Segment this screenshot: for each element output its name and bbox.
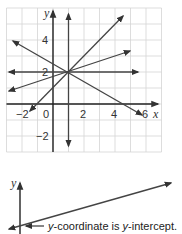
x-tick-6: 6 — [142, 108, 148, 120]
x-tick-neg2: −2 — [16, 108, 29, 120]
coordinate-graph-2: y y-coordinate is y-intercept. — [9, 176, 177, 234]
line-shallow-positive — [9, 51, 130, 91]
y-axis-label-2: y — [10, 176, 17, 190]
x-axis-label: x — [152, 107, 159, 121]
x-tick-2: 2 — [80, 108, 86, 120]
x-tick-0: 0 — [43, 108, 49, 120]
y-tick-4: 4 — [42, 34, 48, 46]
y-axis-label: y — [43, 6, 50, 20]
x-tick-labels: −2 0 2 4 6 — [16, 108, 148, 120]
x-tick-4: 4 — [111, 108, 117, 120]
y-tick-2: 2 — [42, 66, 48, 78]
coordinate-graph-1: −2 0 2 4 6 4 2 −2 y x — [7, 6, 162, 152]
grid — [7, 8, 162, 152]
y-intercept-annotation: y-coordinate is y-intercept. — [47, 220, 177, 232]
figure: −2 0 2 4 6 4 2 −2 y x y y-coordinate is … — [0, 0, 182, 234]
y-tick-neg2: −2 — [36, 130, 49, 142]
